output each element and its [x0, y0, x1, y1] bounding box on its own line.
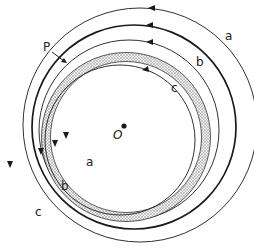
- point-o: O: [113, 123, 127, 142]
- point-p: P: [43, 40, 67, 63]
- label-b-lower: b: [61, 179, 69, 193]
- orbit-diagram: P O a b c a b c: [0, 0, 254, 249]
- curve-a-outer: [23, 8, 254, 242]
- arrow-icon-inner-lower: [63, 132, 69, 139]
- label-o: O: [113, 128, 122, 142]
- label-a-upper: a: [225, 29, 232, 43]
- label-p: P: [43, 40, 50, 54]
- label-a-lower: a: [86, 155, 93, 169]
- arrow-icon-a-lower: [52, 140, 58, 147]
- pointer-arrow-icon: [61, 58, 67, 63]
- arrow-icon-a-bold: [146, 22, 153, 28]
- label-b-upper: b: [196, 55, 204, 69]
- arrow-icon-c-lower: [7, 161, 13, 168]
- arrow-icon-a-outer: [148, 5, 155, 11]
- label-c-lower: c: [35, 205, 42, 219]
- arrow-icon-b: [146, 39, 153, 45]
- label-c-upper: c: [171, 81, 178, 95]
